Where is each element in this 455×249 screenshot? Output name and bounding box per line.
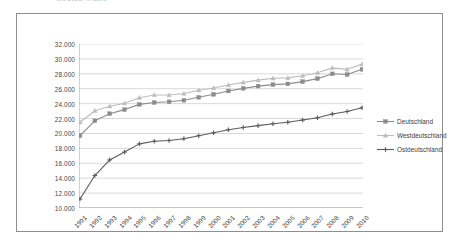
data-point-marker: [182, 98, 186, 102]
x-axis-tick-label: 2008: [325, 214, 340, 229]
data-point-marker: [315, 116, 320, 121]
data-point-marker: [108, 112, 112, 116]
legend-swatch-icon: [377, 131, 394, 140]
legend-label: Westdeutschland: [397, 132, 447, 139]
data-point-marker: [226, 127, 231, 132]
y-axis-tick-labels: 32.00030.00028.00026.00024.00022.00020.0…: [39, 44, 75, 208]
x-axis-tick-label: 2003: [251, 214, 266, 229]
data-point-marker: [241, 86, 245, 90]
data-point-marker: [286, 82, 290, 86]
x-axis-tick-label: 2002: [236, 214, 251, 229]
data-point-marker: [383, 147, 388, 152]
line-chart-plot: [79, 44, 363, 208]
series-layer: [79, 62, 363, 202]
x-axis-tick-label: 2004: [266, 214, 281, 229]
data-point-marker: [285, 120, 290, 125]
x-axis-tick-label: 2006: [295, 214, 310, 229]
data-point-marker: [137, 142, 142, 147]
data-point-marker: [384, 119, 388, 123]
y-axis-tick-label: 20.000: [55, 130, 75, 137]
legend-item-westdeutschland[interactable]: Westdeutschland: [377, 128, 455, 142]
data-point-marker: [271, 121, 276, 126]
y-axis-tick-label: 16.000: [55, 160, 75, 167]
axis-lines: [79, 44, 363, 208]
data-point-marker: [93, 119, 97, 123]
plot-area: [79, 44, 363, 208]
data-point-marker: [211, 130, 216, 135]
x-axis-tick-label: 1995: [132, 214, 147, 229]
y-axis-tick-label: 28.000: [55, 70, 75, 77]
legend-item-ostdeutschland[interactable]: Ostdeutschland: [377, 142, 455, 156]
data-point-marker: [345, 73, 349, 77]
y-axis-tick-label: 10.000: [55, 205, 75, 212]
x-axis-tick-label: 2005: [280, 214, 295, 229]
data-point-marker: [330, 112, 335, 117]
x-axis-tick-label: 2010: [355, 214, 370, 229]
caption-strip: bis 2010, in Euro: [0, 0, 455, 9]
data-point-marker: [241, 125, 246, 130]
series-line: [80, 69, 362, 135]
data-point-marker: [360, 67, 363, 71]
data-point-marker: [137, 102, 141, 106]
x-axis-tick-label: 1996: [147, 214, 162, 229]
data-point-marker: [360, 105, 363, 110]
data-point-marker: [360, 62, 363, 66]
gridlines: [79, 44, 363, 208]
data-point-marker: [256, 84, 260, 88]
chart-legend: DeutschlandWestdeutschlandOstdeutschland: [377, 114, 455, 156]
y-axis-tick-label: 18.000: [55, 145, 75, 152]
x-axis-tick-label: 1992: [87, 214, 102, 229]
y-axis-tick-label: 22.000: [55, 115, 75, 122]
data-point-marker: [212, 92, 216, 96]
data-point-marker: [79, 134, 82, 138]
legend-item-deutschland[interactable]: Deutschland: [377, 114, 455, 128]
x-axis-tick-label: 2009: [340, 214, 355, 229]
x-axis-tick-label: 1999: [191, 214, 206, 229]
y-axis-tick-label: 24.000: [55, 100, 75, 107]
data-point-marker: [301, 80, 305, 84]
y-axis-tick-label: 30.000: [55, 55, 75, 62]
series-line: [80, 108, 362, 199]
series-ostdeutschland: [79, 105, 363, 201]
data-point-marker: [256, 123, 261, 128]
y-axis-tick-label: 26.000: [55, 85, 75, 92]
x-axis-tick-label: 2000: [206, 214, 221, 229]
x-axis-tick-label: 2001: [221, 214, 236, 229]
legend-swatch-icon: [377, 117, 394, 126]
data-point-marker: [122, 150, 127, 155]
legend-label: Ostdeutschland: [397, 146, 442, 153]
data-point-marker: [152, 139, 157, 144]
x-axis-tick-label: 1997: [162, 214, 177, 229]
series-deutschland: [79, 67, 363, 137]
data-point-marker: [271, 83, 275, 87]
x-axis-tick-label: 1998: [177, 214, 192, 229]
data-point-marker: [182, 136, 187, 141]
y-axis-tick-label: 32.000: [55, 41, 75, 48]
legend-label: Deutschland: [397, 118, 433, 125]
x-axis-tick-labels: 1991199219931994199519961997199819992000…: [79, 210, 363, 244]
data-point-marker: [316, 77, 320, 81]
x-axis-tick-label: 1993: [102, 214, 117, 229]
x-axis-tick-label: 1991: [73, 214, 88, 229]
x-axis-tick-label: 2007: [310, 214, 325, 229]
chart-frame: 32.00030.00028.00026.00024.00022.00020.0…: [16, 13, 443, 232]
data-point-marker: [196, 133, 201, 138]
data-point-marker: [227, 89, 231, 93]
data-point-marker: [123, 108, 127, 112]
y-axis-tick-label: 14.000: [55, 175, 75, 182]
data-point-marker: [167, 100, 171, 104]
data-point-marker: [345, 109, 350, 114]
data-point-marker: [330, 72, 334, 76]
x-axis-tick-label: 1994: [117, 214, 132, 229]
legend-swatch-icon: [377, 145, 394, 154]
y-axis-tick-label: 12.000: [55, 190, 75, 197]
data-point-marker: [167, 138, 172, 143]
caption-text: bis 2010, in Euro: [57, 0, 107, 2]
data-point-marker: [152, 101, 156, 105]
data-point-marker: [197, 95, 201, 99]
